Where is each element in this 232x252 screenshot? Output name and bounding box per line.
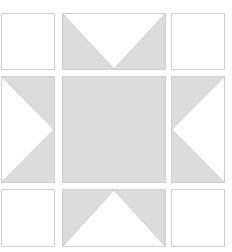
flying-geese-up-shape <box>63 190 165 246</box>
cell-center <box>62 76 166 183</box>
cell-bottom-middle <box>62 189 166 247</box>
flying-geese-right-shape <box>2 77 54 182</box>
flying-geese-left-shape <box>172 77 224 182</box>
diagram-pattern-label: sawtooth-star <box>0 0 1 1</box>
cell-top-middle <box>62 13 166 70</box>
cell-top-right <box>171 13 225 70</box>
cell-middle-left <box>1 76 55 183</box>
quilt-block-diagram: sawtooth-star <box>0 0 232 252</box>
cell-bottom-right <box>171 189 225 247</box>
flying-geese-down-shape <box>63 14 165 69</box>
cell-top-left <box>1 13 55 70</box>
cell-bottom-left <box>1 189 55 247</box>
cell-middle-right <box>171 76 225 183</box>
